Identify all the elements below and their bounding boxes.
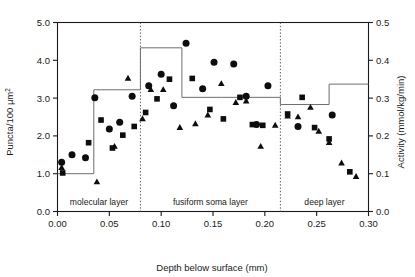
y-tick-label-left: 2.0 (37, 130, 50, 141)
y-tick-label-left: 4.0 (37, 55, 50, 66)
marker-square (120, 132, 126, 138)
marker-circle (106, 126, 113, 133)
marker-triangle (353, 173, 360, 179)
marker-triangle (160, 86, 167, 92)
marker-square (60, 170, 66, 176)
marker-triangle (94, 178, 101, 184)
marker-square (207, 107, 213, 113)
marker-circle (295, 123, 302, 130)
x-tick-label: 0.10 (152, 218, 171, 229)
data-markers (58, 40, 359, 185)
marker-triangle (295, 113, 302, 119)
y-axis-right-ticks: 0.00.10.20.30.40.5 (369, 17, 390, 217)
marker-triangle (205, 112, 212, 118)
marker-circle (116, 119, 123, 126)
marker-square (237, 95, 243, 101)
marker-square (347, 169, 353, 175)
marker-circle (329, 112, 336, 119)
marker-square (189, 76, 195, 82)
x-tick-label: 0.05 (100, 218, 119, 229)
y-tick-label-right: 0.5 (376, 17, 389, 28)
scatter-chart: 0.000.050.100.150.200.250.30 0.01.02.03.… (0, 0, 415, 277)
marker-triangle (272, 122, 279, 128)
y-axis-left-title: Puncta/100 μm2 (4, 88, 15, 156)
marker-circle (211, 59, 218, 66)
marker-triangle (177, 124, 184, 130)
y-tick-label-left: 3.0 (37, 93, 50, 104)
y-tick-label-right: 0.2 (376, 130, 389, 141)
marker-square (154, 96, 160, 102)
marker-circle (183, 40, 190, 47)
marker-square (250, 122, 256, 128)
activity-step-line (58, 48, 369, 174)
marker-square (98, 117, 104, 123)
region-label: deep layer (304, 197, 344, 207)
y-tick-label-right: 0.0 (376, 206, 389, 217)
marker-square (221, 116, 227, 122)
y-tick-label-right: 0.3 (376, 93, 389, 104)
x-tick-label: 0.00 (48, 218, 67, 229)
marker-circle (230, 61, 237, 68)
marker-circle (264, 82, 271, 89)
marker-circle (199, 85, 206, 92)
y-tick-label-right: 0.4 (376, 55, 389, 66)
marker-square (299, 95, 305, 101)
y-tick-label-right: 0.1 (376, 168, 389, 179)
marker-circle (129, 93, 136, 100)
y-tick-label-left: 5.0 (37, 17, 50, 28)
marker-triangle (125, 75, 132, 81)
plot-frame (58, 23, 369, 212)
marker-circle (82, 154, 89, 161)
marker-triangle (257, 143, 264, 149)
marker-circle (158, 71, 165, 78)
x-tick-label: 0.30 (359, 218, 378, 229)
marker-square (86, 140, 92, 146)
figure-container: 0.000.050.100.150.200.250.30 0.01.02.03.… (0, 0, 415, 277)
x-axis-title: Depth below surface (mm) (156, 262, 267, 273)
x-axis-ticks: 0.000.050.100.150.200.250.30 (48, 212, 378, 230)
x-tick-label: 0.20 (256, 218, 275, 229)
y-axis-right-title: Activity (mmol/kg/min) (395, 76, 406, 169)
y-tick-label-left: 0.0 (37, 206, 50, 217)
y-tick-label-left: 1.0 (37, 168, 50, 179)
marker-circle (91, 94, 98, 101)
marker-triangle (218, 80, 225, 86)
marker-square (143, 110, 149, 116)
x-tick-label: 0.25 (307, 218, 326, 229)
x-tick-label: 0.15 (204, 218, 223, 229)
region-label: fusiform soma layer (173, 197, 248, 207)
marker-triangle (338, 160, 345, 166)
region-labels: molecular layerfusiform soma layerdeep l… (70, 197, 345, 207)
marker-square (312, 125, 318, 131)
marker-circle (170, 102, 177, 109)
marker-circle (69, 151, 76, 158)
y-axis-left-ticks: 0.01.02.03.04.05.0 (37, 17, 58, 217)
marker-square (131, 124, 137, 130)
marker-square (167, 76, 173, 82)
region-label: molecular layer (70, 197, 128, 207)
marker-triangle (192, 120, 199, 126)
marker-square (260, 123, 266, 129)
